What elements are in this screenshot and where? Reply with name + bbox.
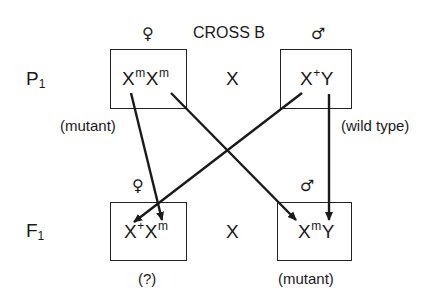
arrow-female-xm-to-f1-female: [131, 93, 162, 220]
arrow-male-xplus-to-f1-female: [134, 93, 302, 222]
inheritance-arrows: [0, 0, 443, 299]
